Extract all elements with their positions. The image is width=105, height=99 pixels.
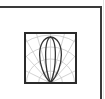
- polar-light-distribution-icon[interactable]: [24, 32, 77, 84]
- frame-right-border: [100, 6, 102, 99]
- polar-diagram-svg: [24, 32, 77, 84]
- frame-top-border: [0, 6, 101, 8]
- frame-faint-edge: [103, 0, 104, 99]
